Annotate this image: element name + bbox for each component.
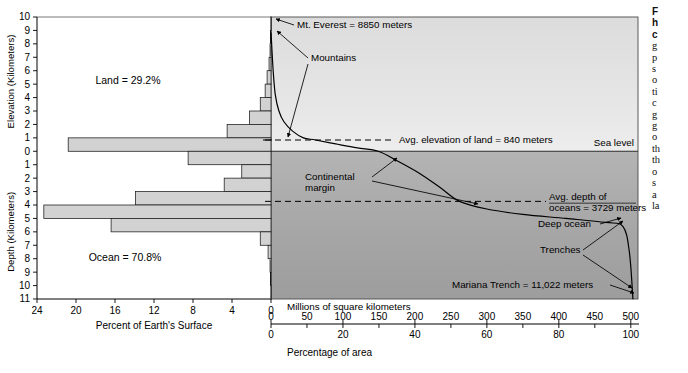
- avg-depth-label-1: Avg. depth of: [549, 191, 607, 202]
- ocean-percent-label: Ocean = 70.8%: [89, 251, 162, 263]
- continental-margin-label-1: Continental: [305, 171, 355, 182]
- y-tick-label: 5: [24, 213, 30, 224]
- y-tick-label: 8: [24, 253, 30, 264]
- y-tick-label: 9: [24, 267, 30, 278]
- land-percent-label: Land = 29.2%: [95, 74, 160, 86]
- x-tick-label: 20: [70, 305, 82, 316]
- histogram-bar: [268, 245, 271, 258]
- histogram-bar: [271, 272, 272, 285]
- percentage-tick-label: 80: [553, 329, 565, 340]
- trenches-label: Trenches: [540, 244, 581, 255]
- everest-label: Mt. Everest = 8850 meters: [297, 19, 412, 30]
- x-tick-label: 24: [31, 305, 43, 316]
- y-axis-ticks: [33, 17, 37, 299]
- histogram-bar: [260, 98, 271, 111]
- x-tick-label: 12: [148, 305, 160, 316]
- histogram-bar: [271, 17, 272, 30]
- elevation-axis-title: Elevation (Kilometers): [5, 35, 16, 129]
- histogram-bar: [270, 44, 271, 57]
- area-tick-label: 250: [443, 311, 460, 322]
- percentage-tick-label: 100: [622, 329, 639, 340]
- sea-level-label: Sea level: [594, 137, 634, 148]
- area-tick-label: 50: [301, 311, 313, 322]
- mountains-label: Mountains: [311, 52, 356, 63]
- histogram-bar: [227, 124, 271, 137]
- y-tick-label: 2: [24, 119, 30, 130]
- land-background: [271, 17, 638, 151]
- x-tick-label: 16: [109, 305, 121, 316]
- histogram-bar: [135, 192, 271, 205]
- histogram-bar: [242, 165, 271, 178]
- histogram-bar: [265, 84, 271, 97]
- y-tick-label: 11: [20, 293, 31, 304]
- percentage-tick-label: 20: [337, 329, 349, 340]
- histogram-bar: [270, 259, 271, 272]
- y-tick-label: 3: [24, 105, 30, 116]
- y-tick-label: 6: [24, 226, 30, 237]
- caption-body: gpsoticggoththosala: [652, 40, 688, 211]
- percentage-tick-label: 0: [268, 329, 274, 340]
- percentage-axis-title: Percentage of area: [287, 347, 372, 358]
- percent-of-surface-axis-title: Percent of Earth's Surface: [96, 320, 213, 331]
- histogram-bar: [44, 205, 271, 218]
- mariana-trench-label: Mariana Trench = 11,022 meters: [452, 279, 593, 290]
- histogram-bar: [68, 138, 271, 151]
- histogram-bar: [267, 71, 271, 84]
- histogram-bar: [224, 178, 271, 191]
- y-tick-label: 4: [24, 92, 30, 103]
- percentage-tick-label: 40: [409, 329, 421, 340]
- caption-heading: Fhc: [652, 6, 688, 40]
- y-tick-label: 3: [24, 186, 30, 197]
- histogram-bar: [111, 218, 271, 231]
- y-tick-label: 4: [24, 199, 30, 210]
- y-tick-label: 6: [24, 65, 30, 76]
- continental-margin-label-2: margin: [305, 182, 335, 193]
- area-tick-label: 350: [515, 311, 532, 322]
- x-tick-label: 4: [229, 305, 235, 316]
- histogram-bar: [260, 232, 271, 245]
- y-tick-label: 0: [24, 146, 30, 157]
- y-tick-label: 7: [24, 52, 30, 63]
- percentage-tick-label: 60: [481, 329, 493, 340]
- figure-caption: Fhc gpsoticggoththosala: [652, 6, 688, 366]
- deep-ocean-label: Deep ocean: [538, 218, 591, 229]
- area-tick-label: 150: [371, 311, 388, 322]
- avg-elevation-label: Avg. elevation of land = 840 meters: [399, 134, 553, 145]
- y-tick-label: 8: [24, 38, 30, 49]
- histogram-bar: [188, 151, 271, 164]
- y-tick-label: 5: [24, 79, 30, 90]
- depth-axis-title: Depth (Kilometers): [5, 192, 16, 272]
- y-tick-label: 9: [24, 25, 30, 36]
- y-tick-label: 2: [24, 173, 30, 184]
- y-tick-label: 1: [24, 132, 30, 143]
- y-tick-label: 1: [24, 159, 30, 170]
- y-tick-label: 7: [24, 240, 30, 251]
- y-tick-label: 10: [19, 11, 31, 22]
- hypsographic-figure: 1098765432101234567891011Elevation (Kilo…: [0, 0, 688, 373]
- left-x-ticks: [37, 299, 271, 303]
- histogram-bar: [269, 57, 271, 70]
- histogram-bar: [250, 111, 271, 124]
- histogram-bar: [271, 286, 272, 299]
- x-tick-label: 8: [190, 305, 196, 316]
- y-tick-label: 10: [19, 280, 31, 291]
- area-tick-label: 450: [586, 311, 603, 322]
- figure-canvas: 1098765432101234567891011Elevation (Kilo…: [0, 0, 688, 373]
